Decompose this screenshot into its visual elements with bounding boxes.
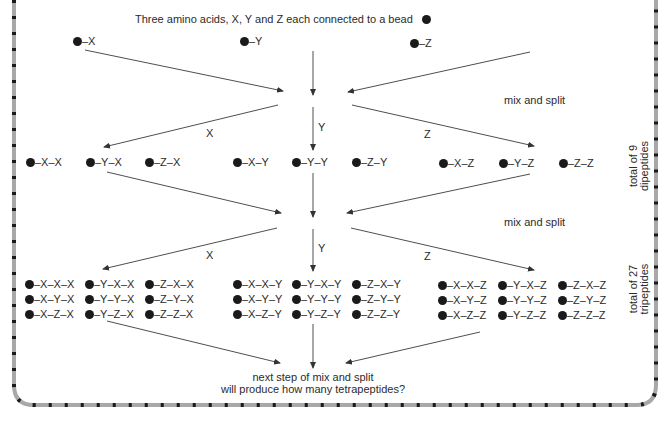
tripeptide-total: total of 27 tripeptides: [628, 256, 650, 322]
bead-icon: [352, 280, 361, 289]
branch-label-x-1: X: [206, 127, 213, 139]
tripeptide-column: –X–X–Z –X–Y–Z –X–Z–Z: [438, 279, 487, 324]
bead-icon: [352, 295, 361, 304]
dipeptide: –X–Z: [439, 157, 474, 170]
bead-icon: [292, 158, 301, 167]
bead-icon: [145, 158, 154, 167]
branch-label-z-1: Z: [424, 128, 431, 140]
tripeptide-column: –Z–X–X –Z–Y–X –Z–Z–X: [145, 278, 194, 323]
intro-text: Three amino acids, X, Y and Z each conne…: [135, 13, 431, 26]
bead-icon: [25, 280, 34, 289]
bead-icon: [25, 295, 34, 304]
monomer-y: –Y: [240, 35, 262, 48]
dipeptide: –Y–Y: [292, 156, 328, 169]
tripeptide-column: –Y–X–Y –Y–Y–Y –Y–Z–Y: [292, 278, 341, 323]
bead-icon: [85, 295, 94, 304]
bead-icon: [240, 37, 249, 46]
dipeptide: –X–X: [26, 156, 62, 169]
branch-label-y-2: Y: [318, 242, 325, 254]
footer-line-1: next step of mix and split: [213, 371, 413, 383]
bead-icon: [292, 295, 301, 304]
bead-icon: [233, 310, 242, 319]
branch-label-x-2: X: [206, 249, 213, 261]
bead-icon: [85, 310, 94, 319]
mix-and-split-label-1: mix and split: [504, 94, 565, 106]
bead-icon: [439, 159, 448, 168]
bead-icon: [438, 281, 447, 290]
branch-label-y-1: Y: [318, 121, 325, 133]
bead-icon: [498, 281, 507, 290]
bead-icon: [292, 280, 301, 289]
mix-and-split-label-2: mix and split: [504, 216, 565, 228]
tripeptide-column: –X–X–X –X–Y–X –X–Z–X: [25, 278, 74, 323]
bead-icon: [352, 158, 361, 167]
dipeptide: –Z–X: [145, 156, 180, 169]
bead-icon: [498, 311, 507, 320]
bead-icon: [85, 280, 94, 289]
bead-icon: [86, 158, 95, 167]
tripeptide-column: –Z–X–Z –Z–Y–Z –Z–Z–Z: [558, 279, 606, 324]
dipeptide: –Y–X: [86, 156, 122, 169]
bead-icon: [499, 159, 508, 168]
bead-icon: [145, 310, 154, 319]
dipeptide-total: total of 9 dipeptides: [628, 136, 650, 196]
bead-icon: [559, 159, 568, 168]
footer-question: next step of mix and split will produce …: [213, 371, 413, 395]
bead-icon: [438, 296, 447, 305]
bead-icon: [410, 39, 419, 48]
tripeptide-column: –Y–X–Z –Y–Y–Z –Y–Z–Z: [498, 279, 547, 324]
intro-label: Three amino acids, X, Y and Z each conne…: [135, 13, 413, 25]
tripeptide-column: –Z–X–Y –Z–Y–Y –Z–Z–Y: [352, 278, 401, 323]
bead-icon: [558, 311, 567, 320]
bead-icon: [233, 295, 242, 304]
monomer-z: –Z: [410, 37, 432, 50]
bead-icon: [558, 296, 567, 305]
bead-icon: [233, 280, 242, 289]
branch-label-z-2: Z: [424, 250, 431, 262]
dipeptide: –Z–Y: [352, 156, 387, 169]
dipeptide: –Z–Z: [559, 157, 594, 170]
bead-icon: [145, 280, 154, 289]
tripeptide-column: –Y–X–X –Y–Y–X –Y–Z–X: [85, 278, 134, 323]
dipeptide: –Y–Z: [499, 157, 534, 170]
bead-icon: [352, 310, 361, 319]
dashed-border: [14, 0, 656, 405]
tripeptide-column: –X–X–Y –X–Y–Y –X–Z–Y: [233, 278, 282, 323]
footer-line-2: will produce how many tetrapeptides?: [213, 383, 413, 395]
bead-icon: [73, 37, 82, 46]
bead-icon: [422, 15, 431, 24]
bead-icon: [145, 295, 154, 304]
diagram-canvas: [0, 0, 670, 423]
bead-icon: [25, 310, 34, 319]
monomer-x: –X: [73, 35, 95, 48]
bead-icon: [438, 311, 447, 320]
bead-icon: [558, 281, 567, 290]
dipeptide: –X–Y: [233, 156, 269, 169]
bead-icon: [26, 158, 35, 167]
bead-icon: [233, 158, 242, 167]
bead-icon: [498, 296, 507, 305]
bead-icon: [292, 310, 301, 319]
